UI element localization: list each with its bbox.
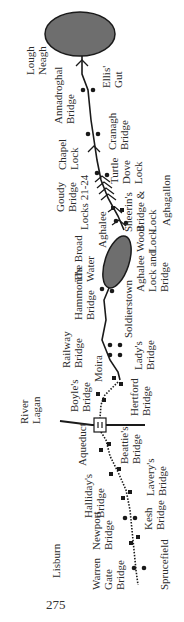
label-railway-bridge: Railway Bridge	[60, 331, 84, 368]
label-lough-neagh: Lough Neagh	[24, 46, 48, 75]
label-laverys-bridge: Lavery's Bridge	[144, 459, 168, 496]
label-kesh-bridge: Kesh Bridge	[142, 500, 166, 530]
label-moira: Moira	[92, 355, 104, 382]
label-sprucefield: Sprucefield	[158, 539, 170, 590]
label-wood-lock: Wood Lock	[134, 226, 158, 252]
label-hammonds-bridge: Hammond's Bridge	[72, 267, 96, 320]
page-number: 275	[46, 597, 66, 613]
label-hertford-bridge: Hertford Bridge	[128, 378, 152, 416]
label-chapel-lock: Chapel Lock	[56, 139, 80, 170]
label-ladys-bridge: Lady's Bridge	[132, 340, 156, 370]
label-soldierstown: Soldierstown	[122, 280, 134, 338]
canal-line-middle	[102, 288, 120, 380]
label-aghalee-lock-bridge: Aghalee Lock and Bridge	[134, 251, 170, 292]
label-goudy-bridge: Goudy Bridge	[54, 182, 78, 212]
label-river-lagan: River Lagan	[18, 397, 42, 424]
label-newport-bridge: Newport Bridge	[90, 512, 114, 551]
label-lisburn: Lisburn	[50, 544, 62, 578]
label-turtle-dove-lock: Turtle Dove Lock	[108, 158, 144, 185]
aqueduct-icon	[94, 418, 106, 432]
label-aghalee: Aghalee	[96, 211, 108, 248]
label-beatties-bridge: Beattie's Bridge	[118, 427, 142, 464]
label-locks-21-24: Locks 21-24	[78, 175, 90, 230]
label-boyles-bridge: Boyle's Bridge	[68, 379, 92, 412]
label-annadroghal-bridge: Annadroghal Bridge	[52, 67, 76, 124]
label-warren-gate-bridge: Warren Gate Bridge	[90, 558, 126, 590]
label-aghagallon: Aghagallon	[160, 175, 172, 226]
lough-neagh-water	[45, 12, 115, 56]
label-ellis-gut: Ellis' Gut	[100, 66, 124, 88]
lock-icon-chapel	[88, 146, 100, 152]
label-aqueduct: Aqueduct	[76, 423, 88, 466]
label-cranagh-bridge: Cranagh Bridge	[106, 113, 130, 150]
